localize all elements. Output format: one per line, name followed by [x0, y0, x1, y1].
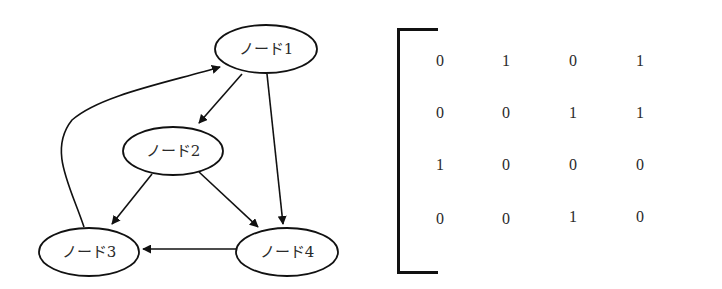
matrix-cell: 0	[491, 210, 521, 228]
matrix-cell: 0	[425, 104, 455, 122]
adjacency-matrix: 0 1 0 1 0 0 1 1 1 0 0 0 0 0 1 0	[380, 0, 722, 289]
edge-node2-node3	[112, 174, 152, 224]
matrix-cell: 0	[491, 104, 521, 122]
matrix-cell: 1	[425, 156, 455, 174]
matrix-cell: 0	[558, 156, 588, 174]
node-1: ノード1	[215, 25, 317, 73]
matrix-cell: 0	[425, 210, 455, 228]
directed-graph: ノード1 ノード2 ノード3 ノード4	[0, 0, 360, 289]
node-4: ノード4	[236, 228, 338, 276]
matrix-cell: 0	[625, 208, 655, 226]
edge-node1-node2	[199, 74, 242, 123]
matrix-cell: 1	[558, 208, 588, 226]
node-3-label: ノード3	[62, 243, 117, 261]
matrix-cell: 1	[491, 52, 521, 70]
edge-node1-node4	[267, 74, 283, 224]
matrix-cell: 0	[558, 52, 588, 70]
matrix-cell: 0	[491, 156, 521, 174]
node-1-label: ノード1	[239, 40, 294, 58]
edge-node2-node4	[199, 172, 258, 227]
matrix-cell: 1	[625, 52, 655, 70]
matrix-cell: 0	[425, 52, 455, 70]
node-4-label: ノード4	[260, 243, 315, 261]
node-2-label: ノード2	[146, 142, 201, 160]
matrix-cell: 1	[625, 104, 655, 122]
matrix-cell: 0	[625, 156, 655, 174]
node-3: ノード3	[39, 228, 139, 276]
node-2: ノード2	[123, 127, 223, 175]
matrix-cell: 1	[558, 104, 588, 122]
